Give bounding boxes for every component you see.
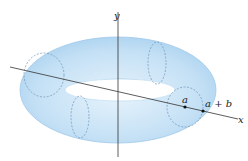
x-axis-label: x: [238, 114, 244, 125]
point-a-plus-b-label: a + b: [205, 98, 232, 109]
torus-hole: [65, 79, 175, 101]
y-axis-label: y: [113, 10, 120, 21]
point-a-label: a: [182, 94, 188, 105]
torus-diagram: y x a a + b: [0, 0, 248, 161]
point-a-plus-b: [201, 109, 204, 112]
point-a: [183, 105, 186, 108]
